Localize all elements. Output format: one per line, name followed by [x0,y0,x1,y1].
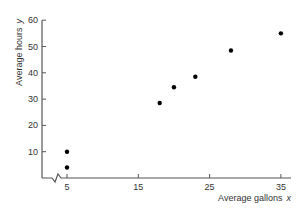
data-point [193,75,197,79]
y-tick-label: 30 [28,94,38,104]
x-tick-label: 15 [133,182,143,192]
x-tick-label: 35 [276,182,286,192]
x-axis-label: Average gallonsx [218,193,291,203]
data-point [65,150,69,154]
y-tick-label: 10 [28,147,38,157]
y-tick-label: 60 [28,15,38,25]
x-tick-label: 25 [205,182,215,192]
y-tick-label: 40 [28,68,38,78]
x-tick-label: 5 [64,182,69,192]
axis-labels: Average gallonsx Average hoursy [14,19,292,204]
y-tick-label: 20 [28,120,38,130]
x-axis-line-with-break [42,174,291,182]
data-point [157,101,161,105]
data-point [279,31,283,35]
data-point [229,48,233,52]
data-point [65,165,69,169]
y-tick-label: 50 [28,42,38,52]
y-axis-label: Average hoursy [14,19,24,86]
scatter-chart: 1020304050605152535 Average gallonsx Ave… [0,0,304,209]
data-points [65,31,283,170]
data-point [172,85,176,89]
